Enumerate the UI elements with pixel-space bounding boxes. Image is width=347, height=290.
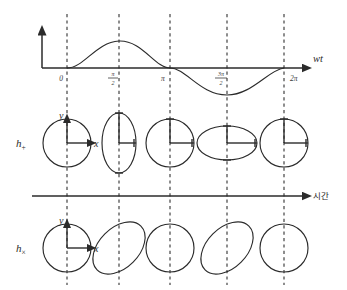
tick-3pi-over-2-numerator: 3π <box>217 71 225 77</box>
figure-canvas: wt 0 π 2 π 3π 2 2π h+ <box>0 0 347 290</box>
gravitational-wave-polarization-figure: wt 0 π 2 π 3π 2 2π h+ <box>0 0 347 290</box>
time-axis: 시간 <box>32 191 329 201</box>
plus-polarization-row: h+ y x <box>16 110 308 173</box>
plus-1-y-label: y <box>58 110 64 121</box>
tick-pi-over-2-denominator: 2 <box>112 80 115 86</box>
cross-row-label-subscript: × <box>22 248 26 257</box>
plus-1-x-label: x <box>93 138 99 149</box>
cross-row-label: h× <box>16 242 26 257</box>
time-axis-label: 시간 <box>313 191 329 201</box>
cross-1-y-label: y <box>58 215 64 226</box>
wave-panel: wt 0 π 2 π 3π 2 2π <box>42 34 324 95</box>
cross-shape-tilted-ellipse-4 <box>191 212 263 284</box>
tick-label-3pi-over-2: 3π 2 <box>215 71 227 86</box>
tick-label-pi: π <box>161 74 165 83</box>
wave-axis-label: wt <box>313 53 324 64</box>
tick-pi-over-2-numerator: π <box>111 71 115 77</box>
plus-row-label-subscript: + <box>22 143 26 152</box>
cross-ellipse-4 <box>191 212 263 284</box>
tick-3pi-over-2-denominator: 2 <box>220 80 223 86</box>
cross-polarization-row: h× y x <box>16 212 308 284</box>
cross-shape-circle-1: y x <box>43 215 99 272</box>
plus-shape-circle-3 <box>146 119 194 167</box>
plus-shape-circle-5 <box>260 119 308 167</box>
plus-shape-circle-1: y x <box>43 110 99 167</box>
tick-label-0: 0 <box>59 74 63 83</box>
tick-label-2pi: 2π <box>290 74 298 83</box>
plus-row-label: h+ <box>16 137 26 152</box>
tick-label-pi-over-2: π 2 <box>108 71 118 86</box>
